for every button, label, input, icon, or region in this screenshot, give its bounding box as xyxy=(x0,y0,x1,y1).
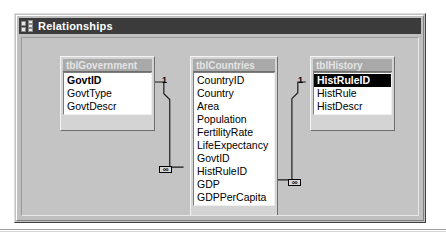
field-row[interactable]: HistDescr xyxy=(314,100,391,113)
field-row-selected[interactable]: HistRuleID xyxy=(314,74,391,87)
field-row[interactable]: GovtID xyxy=(194,152,274,165)
relationships-window-frame: Relationships 1 ∞ 1 ∞ tblGovernmen xyxy=(16,15,424,221)
field-list-title-tblgovernment[interactable]: tblGovernment xyxy=(63,59,152,72)
field-rows-tblcountries: CountryID Country Area Population Fertil… xyxy=(193,72,275,206)
field-row[interactable]: HistRule xyxy=(314,87,391,100)
window-title-bar[interactable]: Relationships xyxy=(19,18,421,34)
field-list-tblgovernment[interactable]: tblGovernment GovtID GovtType GovtDescr xyxy=(60,56,155,131)
field-row[interactable]: GovtDescr xyxy=(64,100,151,113)
cardinality-one-government: 1 xyxy=(162,76,167,85)
field-list-tblcountries[interactable]: tblCountries CountryID Country Area Popu… xyxy=(190,56,278,216)
field-row[interactable]: Area xyxy=(194,100,274,113)
page-divider xyxy=(0,229,446,230)
field-list-title-tblcountries[interactable]: tblCountries xyxy=(193,59,275,72)
field-row[interactable]: Population xyxy=(194,113,274,126)
cardinality-many-countries-hist: ∞ xyxy=(288,179,301,186)
field-row[interactable]: GovtType xyxy=(64,87,151,100)
field-rows-tblgovernment: GovtID GovtType GovtDescr xyxy=(63,72,152,115)
field-row[interactable]: LifeExpectancy xyxy=(194,139,274,152)
cardinality-many-countries-govt: ∞ xyxy=(159,166,172,173)
relationships-icon xyxy=(21,20,34,32)
field-row[interactable]: CountryID xyxy=(194,74,274,87)
field-row[interactable]: Country xyxy=(194,87,274,100)
field-row[interactable]: GDPPerCapita xyxy=(194,191,274,204)
page-divider-shadow xyxy=(0,231,446,232)
field-list-title-tblhistory[interactable]: tblHistory xyxy=(313,59,392,72)
field-rows-tblhistory: HistRuleID HistRule HistDescr xyxy=(313,72,392,115)
field-row[interactable]: GovtID xyxy=(64,74,151,87)
cardinality-one-history: 1 xyxy=(298,76,303,85)
field-row[interactable]: GDP xyxy=(194,178,274,191)
relationships-window[interactable]: Relationships 1 ∞ 1 ∞ tblGovernmen xyxy=(14,13,426,223)
field-row[interactable]: FertilityRate xyxy=(194,126,274,139)
field-row[interactable]: HistRuleID xyxy=(194,165,274,178)
window-title-text: Relationships xyxy=(38,20,113,32)
screen-root: Relationships 1 ∞ 1 ∞ tblGovernmen xyxy=(0,0,446,238)
relationships-canvas[interactable]: 1 ∞ 1 ∞ tblGovernment GovtID GovtType Go… xyxy=(21,37,419,216)
field-list-tblhistory[interactable]: tblHistory HistRuleID HistRule HistDescr xyxy=(310,56,395,131)
